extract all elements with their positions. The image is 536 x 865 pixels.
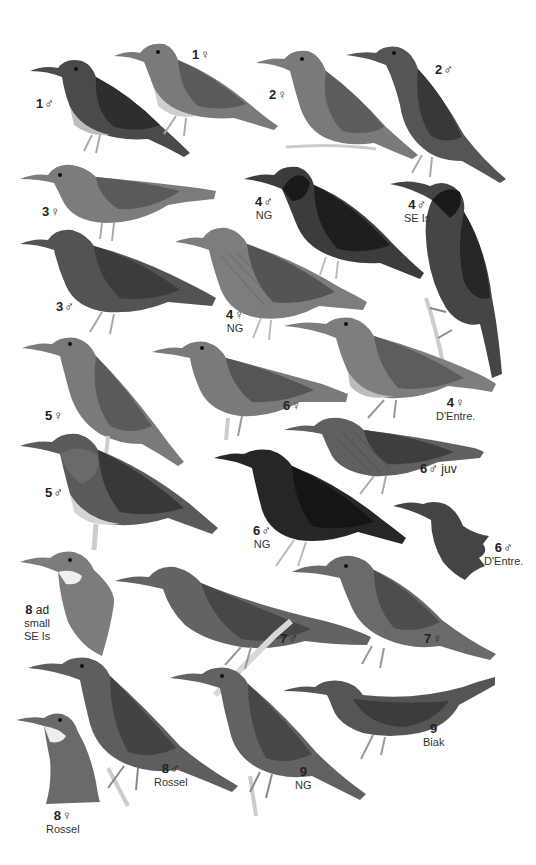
label-6-female: 6♀ — [283, 399, 301, 413]
label-6-male-juv: 6♂ juv — [420, 462, 457, 476]
label-5-female: 5♀ — [45, 409, 63, 423]
label-4-male-ng: 4♂ NG — [255, 195, 273, 222]
label-1-female: 1♀ — [192, 48, 210, 62]
bird-9-biak — [283, 675, 498, 775]
bird-illustration-plate: 1♂ 1♀ 2♀ 2♂ 3♀ 4♂ NG 4♂ SE Is 3♂ 4♀ NG 5… — [0, 0, 536, 865]
label-7-female: 7♀ — [424, 632, 442, 646]
label-4-female-ng: 4♀ NG — [226, 308, 244, 335]
label-9-ng: 9 NG — [295, 765, 312, 792]
label-7-male: 7♂ — [280, 632, 298, 646]
bird-8-female-rossel — [16, 712, 101, 807]
label-6-male-dentre: 6♂ D'Entre. — [484, 541, 523, 568]
label-9-biak: 9 Biak — [423, 722, 444, 749]
label-6-male-ng: 6♂ NG — [253, 524, 271, 551]
label-3-male: 3♂ — [56, 300, 74, 314]
label-3-female: 3♀ — [42, 205, 60, 219]
label-8-male-rossel: 8♂ Rossel — [154, 762, 188, 789]
label-5-male: 5♂ — [45, 486, 63, 500]
label-4-female-dentre: 4♀ D'Entre. — [436, 396, 475, 423]
label-8-female-rossel: 8♀ Rossel — [46, 809, 80, 836]
label-2-male: 2♂ — [435, 63, 453, 77]
label-1-male: 1♂ — [36, 97, 54, 111]
label-4-male-se-is: 4♂ SE Is — [404, 198, 430, 225]
bird-2-male — [346, 45, 511, 185]
bird-7-female — [292, 550, 502, 675]
label-8-adult-small-se-is: 8 ad small SE Is — [24, 603, 50, 643]
label-2-female: 2♀ — [269, 88, 287, 102]
